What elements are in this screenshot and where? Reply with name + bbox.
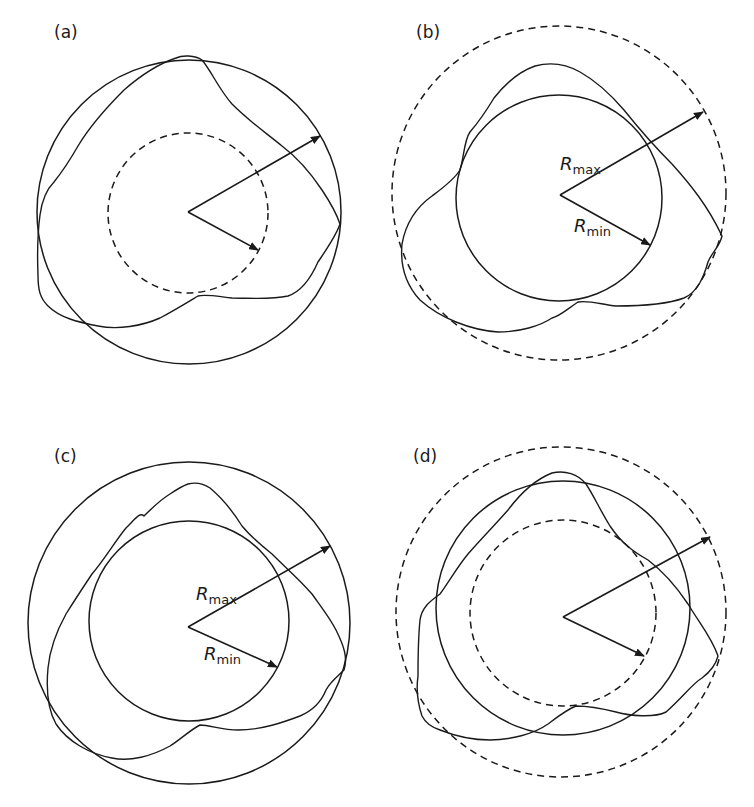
measured-profile (47, 483, 345, 759)
panel-a: (a) (37, 22, 341, 364)
outer-reference-circle (396, 447, 726, 777)
measured-profile (402, 64, 722, 332)
roundness-diagram: (a) (b) Rmax Rmin (c) Rmax Rmin (d) (0, 0, 754, 807)
radius-arrow-max (188, 136, 320, 212)
r-min-label: Rmin (574, 215, 611, 239)
panel-c: (c) Rmax Rmin (28, 446, 350, 784)
outer-reference-circle (392, 26, 726, 360)
measured-profile (38, 56, 340, 328)
inner-reference-circle (456, 95, 662, 301)
inner-reference-circle (470, 520, 656, 706)
radius-arrow-min (563, 617, 644, 656)
r-max-label: Rmax (560, 153, 601, 177)
panel-a-label: (a) (54, 22, 78, 42)
r-min-label: Rmin (204, 643, 241, 667)
panel-d-label: (d) (413, 446, 437, 466)
panel-d: (d) (396, 446, 726, 777)
inner-reference-circle (89, 521, 289, 721)
radius-arrow-max (188, 546, 330, 627)
measured-profile (417, 472, 718, 740)
inner-reference-circle (108, 133, 268, 293)
outer-reference-circle (28, 462, 350, 784)
panel-b: (b) Rmax Rmin (392, 22, 726, 360)
radius-arrow-min (188, 212, 258, 250)
panel-b-label: (b) (416, 22, 440, 42)
panel-c-label: (c) (54, 446, 77, 466)
r-max-label: Rmax (196, 583, 237, 607)
middle-reference-circle (436, 481, 690, 735)
